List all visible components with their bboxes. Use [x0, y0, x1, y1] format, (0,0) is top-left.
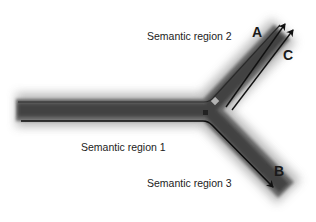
arrow-label-b: B: [274, 163, 284, 179]
arrow-label-a: A: [252, 24, 262, 40]
label-semantic-region-2: Semantic region 2: [147, 30, 232, 42]
label-semantic-region-3: Semantic region 3: [147, 177, 232, 189]
junction-dark-spot: [203, 110, 208, 115]
label-semantic-region-1: Semantic region 1: [81, 141, 166, 153]
arrow-label-c: C: [283, 47, 293, 63]
